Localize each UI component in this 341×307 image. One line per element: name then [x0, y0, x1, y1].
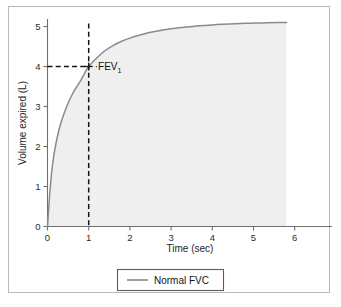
- spirometry-chart: 012345 Volume expired (L) 0123456 Time (…: [0, 0, 341, 307]
- fev1-label-subscript: 1: [117, 66, 121, 75]
- x-tick-label-5: 5: [251, 232, 256, 243]
- x-axis: 0123456 Time (sec): [45, 227, 332, 255]
- x-tick-label-0: 0: [45, 232, 50, 243]
- chart-legend: Normal FVC: [118, 270, 224, 291]
- x-tick-label-6: 6: [292, 232, 297, 243]
- y-axis: 012345 Volume expired (L): [17, 19, 48, 232]
- y-tick-label-2: 2: [35, 141, 40, 152]
- y-tick-label-5: 5: [35, 21, 40, 32]
- x-tick-label-2: 2: [127, 232, 132, 243]
- x-tick-group: 0123456: [45, 227, 297, 244]
- area-under-curve: [48, 22, 287, 226]
- fev1-label-text: FEV: [98, 61, 118, 72]
- y-tick-label-0: 0: [35, 221, 40, 232]
- legend-label-normal-fvc: Normal FVC: [154, 275, 209, 286]
- x-tick-label-3: 3: [168, 232, 173, 243]
- y-tick-label-1: 1: [35, 181, 40, 192]
- y-axis-title: Volume expired (L): [17, 81, 28, 165]
- y-tick-label-4: 4: [35, 61, 40, 72]
- x-tick-label-4: 4: [210, 232, 215, 243]
- x-tick-label-1: 1: [86, 232, 91, 243]
- y-tick-group: 012345: [35, 21, 47, 232]
- y-tick-label-3: 3: [35, 101, 40, 112]
- x-axis-title: Time (sec): [167, 243, 214, 254]
